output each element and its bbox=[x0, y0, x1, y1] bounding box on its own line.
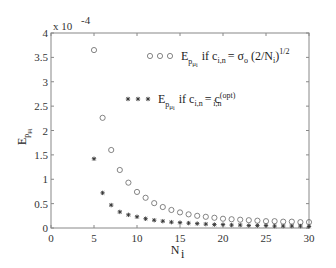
asterisk-marker bbox=[118, 210, 122, 214]
chart: 05101520253000.511.522.533.54x 10-4NiEpμ… bbox=[0, 0, 336, 268]
asterisk-marker bbox=[143, 217, 147, 221]
asterisk-marker bbox=[272, 224, 276, 228]
y-tick-label: 4 bbox=[43, 27, 49, 39]
circle-marker bbox=[203, 214, 208, 219]
asterisk-marker bbox=[264, 223, 268, 227]
legend-entry-asterisk: Epμiif ci,n= c(opt)i,n bbox=[158, 91, 236, 111]
asterisk-marker bbox=[146, 97, 150, 101]
x-axis-label-sub: i bbox=[181, 247, 185, 261]
y-tick-label: 0.5 bbox=[34, 198, 48, 210]
y-tick-label: 3.5 bbox=[34, 51, 48, 63]
asterisk-marker bbox=[109, 203, 113, 207]
circle-marker bbox=[281, 219, 286, 224]
circle-marker bbox=[160, 204, 165, 209]
x-tick-label: 20 bbox=[218, 232, 230, 244]
circle-marker bbox=[195, 213, 200, 218]
circle-marker bbox=[157, 53, 162, 58]
circle-marker bbox=[126, 180, 131, 185]
y-multiplier-exp: -4 bbox=[81, 14, 91, 26]
legend-entry-circle: Epμiif ci,n= σo(2/Ni)1/2 bbox=[181, 47, 289, 68]
circle-marker bbox=[167, 53, 172, 58]
circle-marker bbox=[109, 147, 114, 152]
asterisk-marker bbox=[152, 218, 156, 222]
circle-marker bbox=[143, 195, 148, 200]
circle-marker bbox=[186, 212, 191, 217]
x-tick-label: 5 bbox=[91, 232, 97, 244]
circle-marker bbox=[177, 210, 182, 215]
circle-marker bbox=[100, 115, 105, 120]
circle-marker bbox=[169, 207, 174, 212]
asterisk-marker bbox=[161, 219, 165, 223]
svg-text:Epμi: Epμi bbox=[15, 128, 33, 145]
circle-marker bbox=[246, 218, 251, 223]
circle-marker bbox=[229, 217, 234, 222]
asterisk-marker bbox=[186, 221, 190, 225]
circle-marker bbox=[238, 217, 243, 222]
circle-marker bbox=[117, 167, 122, 172]
asterisk-marker bbox=[178, 220, 182, 224]
y-tick-label: 2.5 bbox=[34, 100, 48, 112]
circle-marker bbox=[289, 219, 294, 224]
x-tick-label: 30 bbox=[304, 232, 316, 244]
asterisk-marker bbox=[135, 215, 139, 219]
asterisk-marker bbox=[281, 224, 285, 228]
x-tick-label: 10 bbox=[132, 232, 144, 244]
asterisk-marker bbox=[204, 222, 208, 226]
asterisk-marker bbox=[307, 224, 311, 228]
y-axis-label: Epμi bbox=[15, 128, 33, 145]
x-tick-label: 0 bbox=[48, 232, 54, 244]
y-tick-label: 1.5 bbox=[34, 149, 48, 161]
x-axis-label: N bbox=[171, 243, 180, 257]
circle-marker bbox=[152, 201, 157, 206]
asterisk-marker bbox=[100, 191, 104, 195]
circle-marker bbox=[91, 47, 96, 52]
circle-marker bbox=[272, 219, 277, 224]
y-tick-label: 2 bbox=[43, 125, 49, 137]
asterisk-marker bbox=[221, 222, 225, 226]
asterisk-marker bbox=[169, 220, 173, 224]
circle-marker bbox=[220, 216, 225, 221]
circle-marker bbox=[263, 219, 268, 224]
circle-marker bbox=[255, 218, 260, 223]
asterisk-marker bbox=[195, 221, 199, 225]
asterisk-marker bbox=[298, 224, 302, 228]
x-tick-label: 25 bbox=[261, 232, 273, 244]
y-tick-label: 0 bbox=[43, 222, 49, 234]
asterisk-marker bbox=[255, 223, 259, 227]
circle-marker bbox=[147, 53, 152, 58]
asterisk-marker bbox=[290, 224, 294, 228]
asterisk-marker bbox=[238, 223, 242, 227]
asterisk-marker bbox=[126, 97, 130, 101]
y-multiplier: x 10 bbox=[53, 20, 73, 32]
asterisk-marker bbox=[136, 97, 140, 101]
circle-marker bbox=[212, 215, 217, 220]
asterisk-marker bbox=[212, 222, 216, 226]
circle-marker bbox=[134, 189, 139, 194]
y-tick-label: 3 bbox=[43, 76, 49, 88]
asterisk-marker bbox=[229, 223, 233, 227]
y-tick-label: 1 bbox=[43, 173, 49, 185]
asterisk-marker bbox=[126, 213, 130, 217]
asterisk-marker bbox=[247, 223, 251, 227]
asterisk-marker bbox=[92, 157, 96, 161]
